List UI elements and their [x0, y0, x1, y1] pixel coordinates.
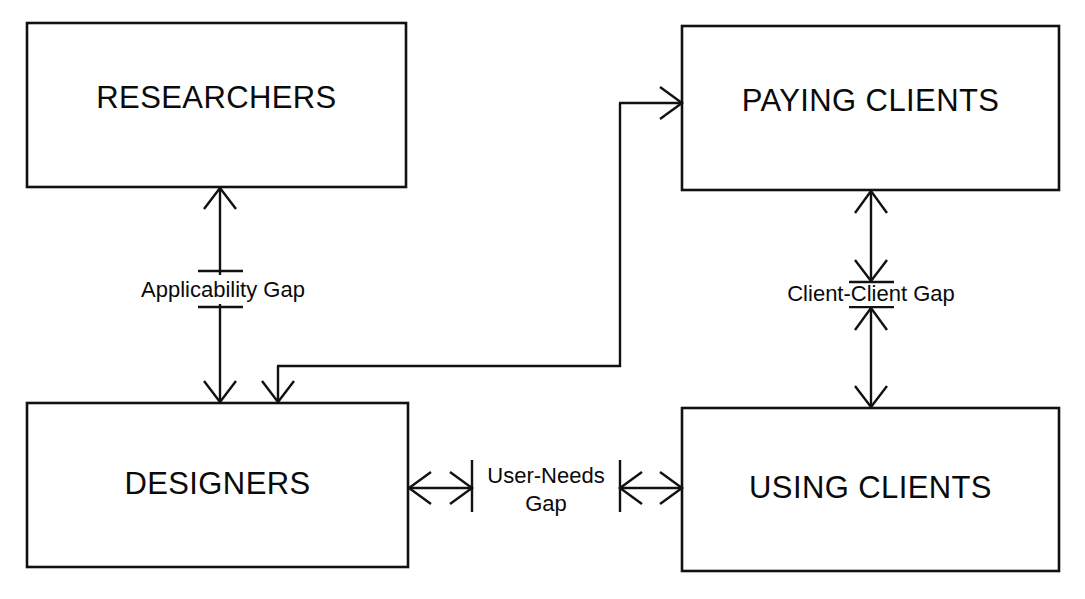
node-paying-clients-label: PAYING CLIENTS: [742, 83, 1000, 118]
node-designers[interactable]: DESIGNERS: [27, 403, 408, 567]
node-designers-label: DESIGNERS: [124, 466, 310, 501]
node-researchers-label: RESEARCHERS: [96, 80, 336, 115]
user-needs-gap-label-line2: Gap: [525, 491, 567, 516]
client-client-gap-label: Client-Client Gap: [787, 281, 955, 306]
node-paying-clients[interactable]: PAYING CLIENTS: [682, 26, 1059, 190]
node-researchers[interactable]: RESEARCHERS: [27, 23, 406, 187]
diagram-svg: RESEARCHERS PAYING CLIENTS DESIGNERS USI…: [0, 0, 1085, 599]
diagram-canvas: RESEARCHERS PAYING CLIENTS DESIGNERS USI…: [0, 0, 1085, 599]
node-using-clients[interactable]: USING CLIENTS: [682, 408, 1059, 571]
edge-client-client-gap[interactable]: Client-Client Gap: [762, 190, 980, 408]
node-using-clients-label: USING CLIENTS: [749, 470, 992, 505]
user-needs-gap-label-line1: User-Needs: [487, 463, 604, 488]
applicability-gap-label: Applicability Gap: [141, 277, 305, 302]
edge-applicability-gap[interactable]: Applicability Gap: [112, 187, 334, 403]
edge-user-needs-gap[interactable]: User-Needs Gap: [409, 460, 682, 516]
